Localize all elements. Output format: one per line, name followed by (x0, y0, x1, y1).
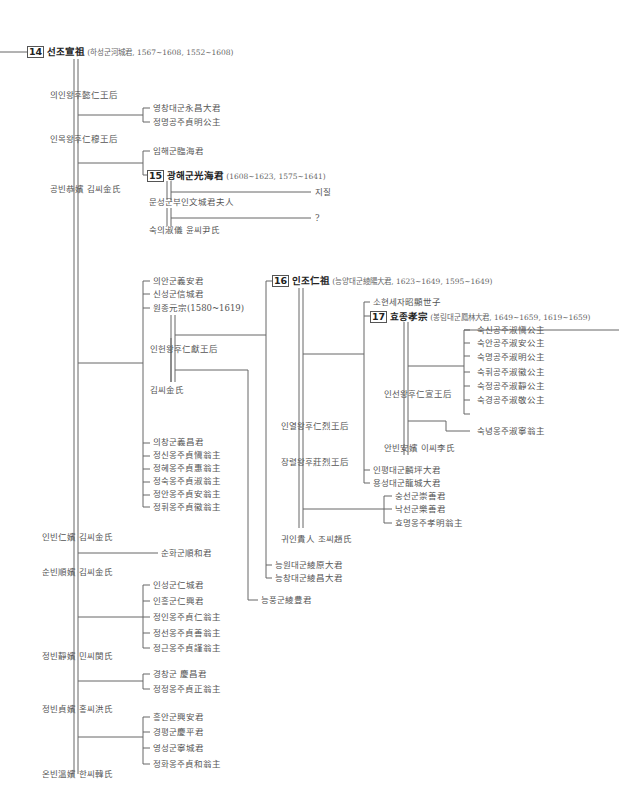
child-label: 인흥군仁興君 (153, 596, 204, 606)
child-label: 숙경공주淑敬公主 (477, 395, 545, 405)
child-label: 정휘옹주貞徽翁主 (153, 502, 221, 512)
child-label: 숙안공주淑安公主 (477, 338, 545, 348)
child-label: 정화옹주貞和翁主 (153, 759, 221, 769)
consort-label: 인열왕후仁烈王后 (281, 421, 349, 431)
child-label: 원종元宗(1580~1619) (153, 303, 244, 313)
consort-label: 김씨金氏 (150, 385, 184, 395)
child-label: 경창군 慶昌君 (153, 669, 207, 679)
consort-label: 의인왕후懿仁王后 (50, 90, 118, 100)
king-gwanghaegun: 15광해군光海君(1608~1623, 1575~1641) (147, 170, 326, 183)
consort-label: 귀인貴人 조씨趙氏 (281, 534, 352, 544)
consort-label: 공빈恭嬪 김씨金氏 (50, 184, 121, 194)
king-info: (능양대군綾陽大君, 1623~1649, 1595~1649) (332, 277, 492, 286)
consort-label: 인목왕후仁穆王后 (50, 134, 118, 144)
child-label: 정안옹주貞安翁主 (153, 489, 221, 499)
child-label: 숙명공주淑明公主 (477, 352, 545, 362)
child-label: 정숙옹주貞淑翁主 (153, 476, 221, 486)
consort-label: 인빈仁嬪 김씨金氏 (42, 532, 113, 542)
child-label: 숙정공주淑靜公主 (477, 381, 545, 391)
king-hyojong: 17효종孝宗(봉림대군鳳林大君, 1649~1659, 1619~1659) (370, 311, 591, 324)
child-label: 소현세자昭顯世子 (373, 297, 441, 307)
child-label: 정근옹주貞謹翁主 (153, 643, 221, 653)
child-label: 의창군義昌君 (153, 437, 204, 447)
consort-label: 정빈靜嬪 민씨閔氏 (42, 651, 113, 661)
child-label: 인성군仁城君 (153, 580, 204, 590)
consort-label: 인선왕후仁宣王后 (384, 389, 452, 399)
child-label: 정혜옹주貞惠翁主 (153, 463, 221, 473)
reign-number: 15 (147, 170, 164, 182)
child-label: 용성대군龍城大君 (373, 478, 441, 488)
child-label: 신성군信城君 (153, 289, 204, 299)
consort-label: 장렬왕후莊烈王后 (281, 457, 349, 467)
consort-label: 안빈安嬪 이씨李氏 (384, 443, 455, 453)
child-label: 효명옹주孝明翁主 (395, 518, 463, 528)
child-label: ? (315, 213, 320, 223)
genealogy-connector-lines (0, 0, 619, 812)
child-label: 지질 (315, 187, 331, 197)
consort-label: 정빈貞嬪 홍씨洪氏 (42, 704, 113, 714)
consort-label: 온빈溫嬪 한씨韓氏 (42, 769, 113, 779)
child-label: 의안군義安君 (153, 276, 204, 286)
king-injo: 16인조仁祖(능양대군綾陽大君, 1623~1649, 1595~1649) (272, 275, 493, 288)
king-info: (하성군河城君, 1567~1608, 1552~1608) (87, 48, 233, 57)
consort-label: 순빈順嬪 김씨金氏 (42, 567, 113, 577)
reign-number: 17 (370, 311, 387, 323)
child-label: 숙휘공주淑徽公主 (477, 367, 545, 377)
child-label: 영창대군永昌大君 (153, 103, 221, 113)
child-label: 순화군順和君 (161, 548, 212, 558)
child-label: 정신옹주貞愼翁主 (153, 450, 221, 460)
child-label: 정선옹주貞善翁主 (153, 628, 221, 638)
child-label: 흥안군興安君 (153, 712, 204, 722)
child-label: 임해군臨海君 (153, 146, 204, 156)
king-name: 인조仁祖 (292, 275, 330, 286)
child-label: 영성군寧城君 (153, 743, 204, 753)
child-label: 경평군慶平君 (153, 727, 204, 737)
child-label: 정인옹주貞仁翁主 (153, 612, 221, 622)
king-name: 광해군光海君 (167, 170, 224, 181)
child-label: 인평대군麟坪大君 (373, 465, 441, 475)
child-label: 능원대군綾原大君 (275, 560, 343, 570)
king-name: 선조宣祖 (47, 46, 85, 57)
king-name: 효종孝宗 (390, 311, 428, 322)
consort-label: 숙의淑儀 윤씨尹氏 (149, 225, 220, 235)
reign-number: 16 (272, 275, 289, 287)
child-label: 정명공주貞明公主 (153, 117, 221, 127)
child-label: 능창대군綾昌大君 (275, 573, 343, 583)
child-label: 숙신공주淑愼公主 (477, 325, 545, 335)
child-label: 숙녕옹주淑寧翁主 (477, 426, 545, 436)
king-seonjo: 14선조宣祖(하성군河城君, 1567~1608, 1552~1608) (27, 46, 234, 59)
consort-label: 인헌왕후仁獻王后 (150, 344, 218, 354)
child-label: 낙선군樂善君 (395, 504, 446, 514)
child-label: 정정옹주貞正翁主 (153, 684, 221, 694)
reign-number: 14 (27, 46, 44, 58)
king-info: (봉림대군鳳林大君, 1649~1659, 1619~1659) (430, 313, 590, 322)
king-info: (1608~1623, 1575~1641) (226, 172, 326, 181)
child-label: 숭선군崇善君 (395, 491, 446, 501)
child-label: 능풍군綾豊君 (261, 595, 312, 605)
consort-label: 문성군부인文城君夫人 (149, 197, 234, 207)
